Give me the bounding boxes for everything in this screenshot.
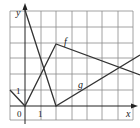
y-tick-label: 1 [16,86,21,96]
y-axis-label: y [15,7,21,18]
origin-label: 0 [17,109,22,119]
curve-f [10,44,140,106]
x-axis-label: x [125,108,131,119]
x-tick-label: 1 [38,109,43,119]
x-axis-arrow-icon [131,104,138,109]
y-axis-arrow-icon [23,3,28,10]
g-label: g [78,79,83,90]
f-label: f [64,36,68,47]
function-graph: y x 0 1 1 f g [0,0,140,128]
